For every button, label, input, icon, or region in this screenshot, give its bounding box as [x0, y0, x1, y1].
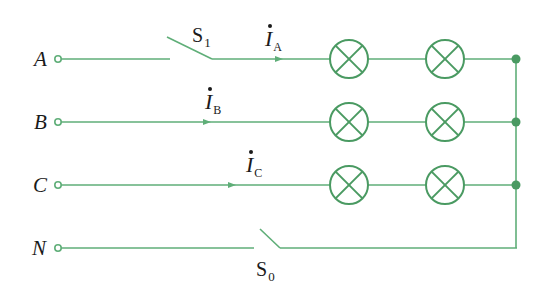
lamp-c2-icon: [426, 166, 464, 204]
junction-node-c: [512, 181, 521, 190]
phase-label-c: C: [33, 175, 47, 196]
arrow-ia-icon: [275, 56, 283, 62]
phase-label-b: B: [34, 112, 47, 133]
current-label-ib: IB: [205, 91, 221, 113]
switch-label-s1: S1: [192, 25, 211, 45]
phasor-dot-icon: [249, 150, 253, 154]
terminal-a: [55, 56, 61, 62]
terminal-n: [55, 245, 61, 251]
current-label-ia: IA: [265, 28, 282, 50]
lamp-a2-icon: [426, 40, 464, 78]
junction-node-b: [512, 118, 521, 127]
phase-label-a: A: [34, 49, 47, 70]
circuit-diagram: A B C N IA IB IC S1 S0: [0, 0, 551, 297]
lamp-b2-icon: [426, 103, 464, 141]
arrow-ib-icon: [203, 119, 211, 125]
lamp-b1-icon: [330, 103, 368, 141]
lamp-a1-icon: [330, 40, 368, 78]
junction-node-a: [512, 55, 521, 64]
terminal-b: [55, 119, 61, 125]
current-label-ic: IC: [246, 154, 262, 176]
arrow-ic-icon: [228, 182, 236, 188]
switch-label-s0: S0: [256, 259, 275, 279]
phase-label-n: N: [32, 238, 46, 259]
phasor-dot-icon: [268, 24, 272, 28]
switch-s0-blade: [260, 229, 280, 248]
terminal-c: [55, 182, 61, 188]
lamp-c1-icon: [330, 166, 368, 204]
phasor-dot-icon: [208, 87, 212, 91]
